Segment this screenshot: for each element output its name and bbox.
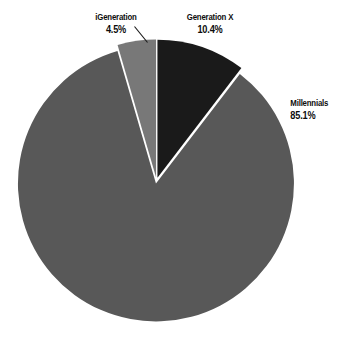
slice-label-millennials-value: 85.1% bbox=[290, 110, 343, 121]
pie-chart: iGeneration 4.5% Generation X 10.4% Mill… bbox=[0, 0, 346, 340]
slice-label-generationx-value: 10.4% bbox=[170, 24, 251, 35]
slice-label-igeneration-value: 4.5% bbox=[76, 24, 157, 35]
slice-label-igeneration: iGeneration 4.5% bbox=[76, 12, 157, 35]
slice-label-millennials-name: Millennials bbox=[290, 98, 343, 109]
slice-label-generationx: Generation X 10.4% bbox=[170, 12, 251, 35]
slice-label-igeneration-name: iGeneration bbox=[76, 12, 157, 23]
pie-chart-canvas bbox=[0, 0, 346, 340]
slice-label-generationx-name: Generation X bbox=[170, 12, 251, 23]
slice-label-millennials: Millennials 85.1% bbox=[290, 98, 343, 121]
